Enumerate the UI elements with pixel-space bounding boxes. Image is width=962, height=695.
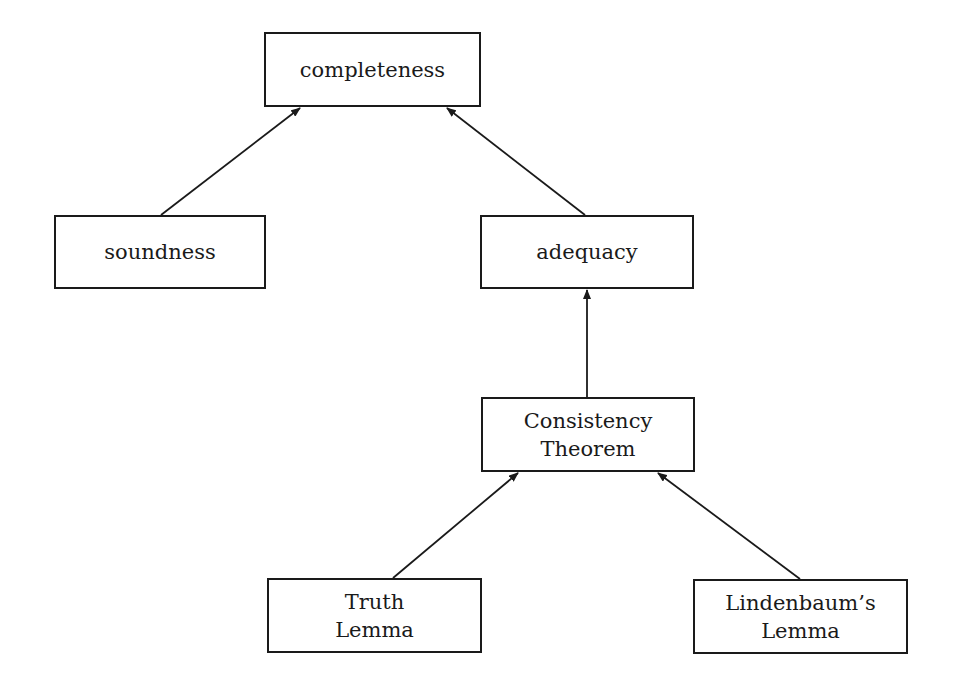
node-label-line-2: Theorem <box>541 435 636 463</box>
node-label-line-1: Consistency <box>524 407 653 435</box>
edge-soundness-to-completeness <box>161 108 300 215</box>
node-label-line-1: Truth <box>345 588 405 616</box>
node-adequacy: adequacy <box>480 215 694 289</box>
node-lindenbaums-lemma: Lindenbaum’s Lemma <box>693 579 908 654</box>
diagram-canvas: completeness soundness adequacy Consiste… <box>0 0 962 695</box>
node-soundness: soundness <box>54 215 266 289</box>
edge-lindenbaum-to-consistency <box>658 473 800 579</box>
node-truth-lemma: Truth Lemma <box>267 578 482 653</box>
node-label-line-2: Lemma <box>761 617 840 645</box>
node-label: soundness <box>104 238 215 266</box>
node-label: adequacy <box>536 238 638 266</box>
node-completeness: completeness <box>264 32 481 107</box>
node-label-line-1: Lindenbaum’s <box>725 589 875 617</box>
node-label-line-2: Lemma <box>335 616 414 644</box>
edge-truth-to-consistency <box>393 473 518 578</box>
edge-adequacy-to-completeness <box>447 108 585 215</box>
node-consistency-theorem: Consistency Theorem <box>481 397 695 472</box>
node-label: completeness <box>300 56 445 84</box>
